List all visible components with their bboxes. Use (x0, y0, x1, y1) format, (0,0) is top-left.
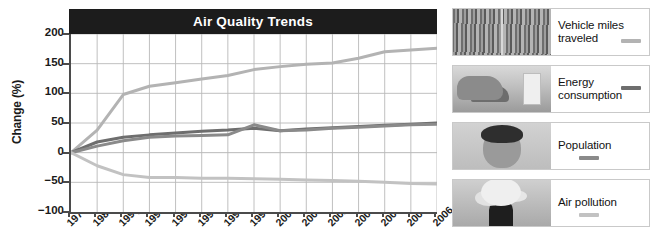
traffic-jam-photo (453, 9, 551, 55)
y-tick-label: 50 (20, 115, 64, 127)
legend-label-line: traveled (558, 32, 624, 46)
y-tick-label: −50 (20, 174, 64, 186)
legend-item[interactable]: Vehicle milestraveled (452, 8, 650, 56)
plot-area (71, 34, 437, 212)
plot-svg (71, 34, 437, 212)
plot-frame (69, 34, 437, 214)
legend-text: Energyconsumption (551, 66, 649, 112)
legend-color-swatch (621, 86, 641, 90)
chart-title: Air Quality Trends (193, 14, 313, 29)
legend-text: Vehicle milestraveled (551, 9, 649, 55)
legend-item-label: Vehicle milestraveled (558, 19, 624, 46)
legend-item[interactable]: Population (452, 122, 650, 170)
legend-item[interactable]: Air pollution (452, 179, 650, 227)
chart-title-bar: Air Quality Trends (69, 9, 437, 34)
legend-label-line: Vehicle miles (558, 19, 624, 33)
legend-item-label: Air pollution (558, 196, 617, 210)
legend: Vehicle milestraveledEnergyconsumptionPo… (452, 8, 656, 244)
chart-block: Change (%) Air Quality Trends 2001501005… (0, 0, 450, 251)
legend-text: Air pollution (551, 180, 649, 226)
y-tick-label: 0 (20, 145, 64, 157)
legend-item[interactable]: Energyconsumption (452, 65, 650, 113)
y-tick-label: 150 (20, 56, 64, 68)
legend-item-label: Energyconsumption (558, 76, 622, 103)
legend-label-line: consumption (558, 89, 622, 103)
air-quality-trends-figure: Change (%) Air Quality Trends 2001501005… (0, 0, 658, 251)
legend-color-swatch (621, 39, 641, 43)
y-tick-label: 100 (20, 85, 64, 97)
smokestack-photo (453, 180, 551, 226)
baby-face-photo (453, 123, 551, 169)
legend-color-swatch (579, 213, 599, 217)
legend-text: Population (551, 123, 649, 169)
legend-item-label: Population (558, 139, 611, 153)
y-tick-label: 200 (20, 26, 64, 38)
y-tick-label: −100 (20, 204, 64, 216)
hand-light-switch-photo (453, 66, 551, 112)
legend-label-line: Energy (558, 76, 622, 90)
legend-color-swatch (579, 156, 599, 160)
y-axis-title: Change (%) (10, 67, 24, 157)
